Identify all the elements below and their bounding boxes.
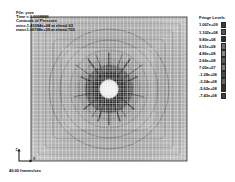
fringe-level-label: 9.80e+08 <box>199 37 221 42</box>
fringe-legend-row[interactable]: -5.62e+08 <box>199 85 233 92</box>
fringe-legend-title: Fringe Levels <box>199 15 233 20</box>
fringe-level-label: -3.24e+08 <box>199 79 221 84</box>
fringe-level-swatch <box>221 57 226 64</box>
fringe-level-label: 4.86e+08 <box>199 51 221 56</box>
axis-label-x: X <box>33 157 36 161</box>
fringe-legend-row[interactable]: -1.28e+08 <box>199 71 233 78</box>
fringe-level-swatch <box>221 78 226 85</box>
fringe-level-label: 1.067e+09 <box>199 22 221 27</box>
fringe-level-label: 8.51e+08 <box>199 44 221 49</box>
plot-header-annotations: File: yxzz Time = 0.0008886 Contours of … <box>16 11 75 32</box>
frame-rate-label: 40.00 frames/sec <box>9 168 41 173</box>
fringe-level-label: -1.28e+08 <box>199 72 221 77</box>
fringe-legend-row[interactable]: 9.80e+08 <box>199 36 233 43</box>
fringe-legend-row[interactable]: 1.067e+09 <box>199 21 233 28</box>
fringe-level-label: -5.62e+08 <box>199 86 221 91</box>
fringe-level-swatch <box>221 50 226 57</box>
axis-label-z: Z <box>15 148 17 152</box>
ls-prepost-contour-plot-window: File: yxzz Time = 0.0008886 Contours of … <box>0 0 235 182</box>
fringe-level-swatch <box>221 85 226 92</box>
fringe-legend-row[interactable]: 8.51e+08 <box>199 43 233 50</box>
fringe-level-swatch <box>221 64 226 71</box>
axis-triad-glyph: Z X <box>15 148 39 164</box>
contour-plot-canvas <box>26 13 192 165</box>
axis-triad: Z X <box>15 148 39 164</box>
fringe-level-label: 7.00e+07 <box>199 65 221 70</box>
fringe-level-label: 2.66e+08 <box>199 58 221 63</box>
fringe-level-label: -7.43e+08 <box>199 93 221 98</box>
fringe-level-swatch <box>221 71 226 78</box>
fringe-level-swatch <box>221 36 226 43</box>
fringe-legend-row[interactable]: -7.43e+08 <box>199 92 233 99</box>
header-max-line: max=1.06704e+09 at elem# 705 <box>16 28 75 32</box>
mesh-grid-overlay-fine <box>62 48 156 130</box>
fringe-level-swatch <box>221 22 226 29</box>
fringe-level-swatch <box>221 93 226 100</box>
pressure-field-group <box>31 17 187 161</box>
fringe-legend-row[interactable]: -3.24e+08 <box>199 78 233 85</box>
fringe-legend-row[interactable]: 2.66e+08 <box>199 57 233 64</box>
fringe-level-label: 1.102e+08 <box>199 30 221 35</box>
fringe-legend-row[interactable]: 1.102e+08 <box>199 28 233 35</box>
fringe-legend-row[interactable]: 7.00e+07 <box>199 64 233 71</box>
fringe-level-swatch <box>221 29 226 36</box>
mesh-contour-viewport[interactable] <box>26 13 192 165</box>
fringe-legend-row[interactable]: 4.86e+08 <box>199 50 233 57</box>
fringe-level-swatch <box>221 43 226 50</box>
fringe-levels-legend[interactable]: Fringe Levels 1.067e+091.102e+089.80e+08… <box>199 15 233 99</box>
fringe-legend-rows: 1.067e+091.102e+089.80e+088.51e+084.86e+… <box>199 21 233 99</box>
